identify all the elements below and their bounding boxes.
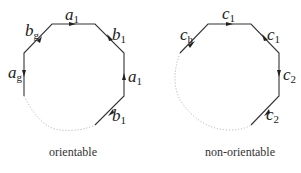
edge-label: b1 xyxy=(112,106,126,126)
dotted-arc xyxy=(24,96,95,130)
edge-label: b1 xyxy=(112,25,126,45)
edge-label: a1 xyxy=(65,5,79,25)
edge-label: bg xyxy=(25,21,40,41)
edge-label: ch xyxy=(180,25,194,45)
arrow-icon xyxy=(277,70,281,77)
edge-label: c2 xyxy=(283,65,296,85)
edge-label: c1 xyxy=(267,25,280,45)
edge-label: ag xyxy=(8,63,23,83)
orientable-polygon: a1 b1 a1 b1 ag bg orientable xyxy=(8,5,142,159)
caption-orientable: orientable xyxy=(49,145,97,159)
edge-label: c1 xyxy=(222,4,235,24)
caption-non-orientable: non-orientable xyxy=(205,145,275,159)
arrow-icon xyxy=(22,70,26,77)
non-orientable-polygon: c1 c1 c2 c2 ch non-orientable xyxy=(175,4,296,159)
edge-label: a1 xyxy=(128,67,142,87)
polygon-diagram: a1 b1 a1 b1 ag bg orientable c1 c1 c2 c2… xyxy=(0,0,301,173)
dotted-arc xyxy=(175,53,251,130)
arrow-icon xyxy=(122,73,126,80)
edge-label: c2 xyxy=(266,105,279,125)
